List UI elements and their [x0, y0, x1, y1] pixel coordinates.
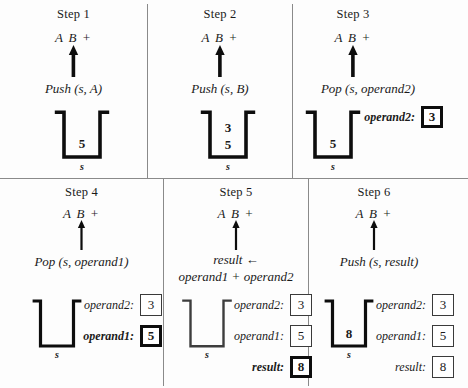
- variable-value-box: 3: [432, 294, 454, 316]
- variable-row: operand2: 3: [364, 294, 454, 316]
- variable-label: operand2:: [349, 110, 421, 125]
- variable-value-box: 3: [421, 106, 443, 128]
- stack-value-0: 5: [304, 136, 362, 152]
- variable-label: operand2:: [364, 298, 432, 313]
- step-title: Step 5: [164, 185, 308, 200]
- step-expression: A B +: [0, 30, 147, 46]
- step-operation: result ←: [164, 251, 308, 268]
- stack-value-0: 3: [199, 120, 257, 136]
- variable-label: operand1:: [364, 329, 432, 344]
- step-operation: Push (s, result): [309, 254, 449, 270]
- stack-glyph: 3 5: [199, 110, 257, 160]
- stack-label: s: [304, 161, 362, 172]
- variable-label: result:: [222, 360, 290, 375]
- step-operation: Pop (s, operand1): [0, 254, 163, 270]
- variable-row: operand1: 5: [72, 325, 162, 347]
- variable-value-box: 5: [432, 325, 454, 347]
- step-panel-6: Step 6 A B + Push (s, result) 8 s operan…: [309, 179, 468, 388]
- step-panel-2: Step 2 A B + Push (s, B) 3 5 s: [148, 0, 292, 178]
- up-arrow-icon: [164, 220, 308, 250]
- variable-label: operand1:: [222, 329, 290, 344]
- step-title: Step 2: [148, 7, 292, 22]
- variable-row: operand2: 3: [72, 294, 162, 316]
- variable-label: result:: [364, 360, 432, 375]
- up-arrow-icon: [0, 45, 147, 77]
- step-operation-line2: operand1 + operand2: [164, 268, 308, 285]
- step-panel-5: Step 5 A B + result ← operand1 + operand…: [164, 179, 308, 388]
- step-panel-3: Step 3 A B + Pop (s, operand2) 5 s opera…: [293, 0, 468, 178]
- step-expression: A B +: [293, 30, 413, 46]
- stack-value-0: 5: [53, 136, 111, 152]
- up-arrow-icon: [293, 45, 413, 77]
- variable-row: operand2: 3: [349, 106, 443, 128]
- variable-row: operand1: 5: [222, 325, 312, 347]
- variable-row: result: 8: [222, 356, 312, 378]
- stack-label: s: [53, 161, 111, 172]
- stack-label: s: [31, 349, 83, 360]
- variable-label: operand2:: [222, 298, 290, 313]
- variable-value-box: 5: [140, 325, 162, 347]
- step-operation: Pop (s, operand2): [293, 81, 443, 97]
- step-title: Step 6: [309, 185, 439, 200]
- step-title: Step 3: [293, 7, 413, 22]
- step-operation: Push (s, A): [0, 81, 147, 97]
- up-arrow-icon: [148, 45, 292, 77]
- up-arrow-icon: [309, 220, 439, 250]
- step-expression: A B +: [148, 30, 292, 46]
- step-operation: Push (s, B): [148, 81, 292, 97]
- variable-value-box: 3: [140, 294, 162, 316]
- step-panel-4: Step 4 A B + Pop (s, operand1) s operand…: [0, 179, 163, 388]
- variable-row: operand2: 3: [222, 294, 312, 316]
- stack-label: s: [199, 161, 257, 172]
- step-panel-1: Step 1 A B + Push (s, A) 5 s: [0, 0, 147, 178]
- step-title: Step 4: [0, 185, 163, 200]
- variable-value-box: 8: [432, 356, 454, 378]
- stack-value-1: 5: [199, 137, 257, 153]
- stack-glyph: 5: [53, 110, 111, 160]
- variable-label: operand2:: [72, 298, 140, 313]
- variable-label: operand1:: [72, 329, 140, 344]
- up-arrow-icon: [0, 220, 163, 250]
- variable-row: result: 8: [364, 356, 454, 378]
- step-title: Step 1: [0, 7, 147, 22]
- postfix-evaluation-figure: Step 1 A B + Push (s, A) 5 s Step 2 A B …: [0, 0, 468, 388]
- variable-row: operand1: 5: [364, 325, 454, 347]
